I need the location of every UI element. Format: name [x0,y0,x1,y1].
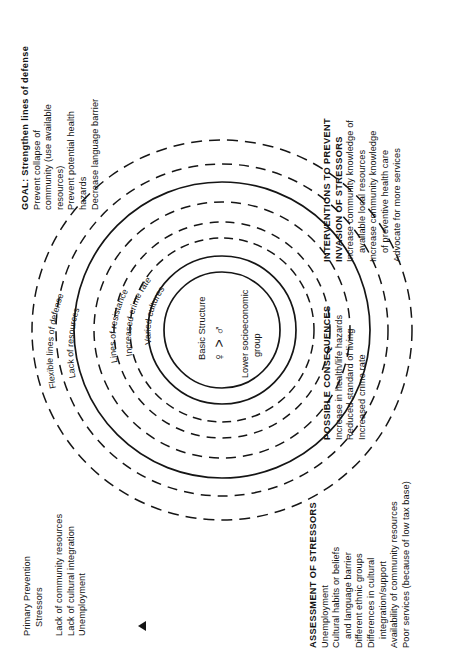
goal-line-3: resources) [55,46,67,210]
consequences-line-2: Reduced standard of living [345,306,357,440]
arc-label-varied-cultures: Varied cultures [143,284,167,345]
primary-prevention-line-4: Lack of cultural integration [66,514,78,636]
interventions-line-1: INVASION OF STRESSORS [334,118,346,262]
goal-line-1: Prevent collapse of [32,46,44,210]
assessment-line-8: Poor services (because of low tax base) [401,481,413,648]
assessment-line-1: Unemployment [320,481,332,648]
goal-line-0: GOAL: Strengthen lines of defense [20,46,32,210]
interventions-text-block: INTERVENTIONS TO PREVENT INVASION OF STR… [322,118,403,262]
core-label-socioeconomic: Lower socioeconomic [240,289,250,378]
arc-label-flexible-lines-of-defense: Flexible lines of defense [45,292,66,390]
interventions-line-4: Increase community knowledge [368,118,380,262]
primary-prevention-text-block: Primary Prevention Stressors Lack of com… [22,514,89,636]
assessment-text-block: ASSESSMENT OF STRESSORS Unemployment Cul… [308,481,412,648]
assessment-line-7: Availability of community resources [389,481,401,648]
goal-line-5: hazards [78,46,90,210]
interventions-line-5: of preventive health care [380,118,392,262]
consequences-text-block: POSSIBLE CONSEQUENCES Increase in health… [322,306,368,440]
consequences-line-0: POSSIBLE CONSEQUENCES [322,306,334,440]
core-label-gender-ratio: ♀ > ♂ [211,325,227,362]
primary-prevention-spacer [45,514,54,636]
assessment-line-4: Different ethnic groups [354,481,366,648]
consequences-line-1: Increase in health/life hazards [334,306,346,440]
core-label-basic-structure: Basic Structure [196,296,207,360]
interventions-line-2: Increase community knowledge of [345,118,357,262]
assessment-line-5: Differences in cultural [366,481,378,648]
assessment-line-3: and language barrier [343,481,355,648]
primary-prevention-line-0: Primary Prevention [22,514,34,636]
assessment-line-2: Cultural habits or beliefs [331,481,343,648]
primary-prevention-line-5: Unemployment [77,514,89,636]
primary-prevention-line-1: Stressors [34,514,46,636]
figure-page: Flexible lines of defense Lack of resour… [0,0,450,656]
goal-line-2: community (use available [43,46,55,210]
core-label-socioeconomic-group: group [252,334,262,358]
goal-line-6: Decrease language barrier [90,46,102,210]
goal-line-4: Prevent potential health [66,46,78,210]
interventions-line-6: Advocate for more services [392,118,404,262]
figure-marker-triangle [138,621,146,631]
primary-prevention-line-3: Lack of community resources [54,514,66,636]
consequences-line-3: Increased crime rate [357,306,369,440]
interventions-line-0: INTERVENTIONS TO PREVENT [322,118,334,262]
goal-text-block: GOAL: Strengthen lines of defense Preven… [20,46,101,210]
interventions-line-3: available local resources [357,118,369,262]
assessment-line-6: integration/support [378,481,390,648]
assessment-line-0: ASSESSMENT OF STRESSORS [308,481,320,648]
